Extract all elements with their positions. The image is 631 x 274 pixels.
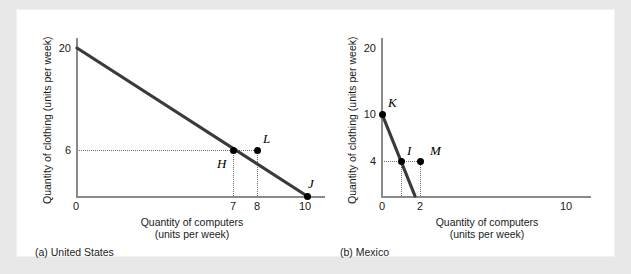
- panel-caption-mx: (b) Mexico: [340, 246, 389, 258]
- chart-panel-mexico: Quantity of clothing (units per week) 20…: [322, 10, 614, 256]
- x-axis-title-mx-line1: Quantity of computers: [392, 216, 582, 228]
- data-point-label-j: J: [308, 177, 314, 190]
- figure-frame: Quantity of clothing (units per week) 20…: [17, 10, 614, 256]
- data-point-label-l: L: [263, 132, 270, 145]
- data-point-l[interactable]: [254, 147, 261, 154]
- data-point-m[interactable]: [417, 158, 424, 165]
- data-point-k[interactable]: [379, 111, 386, 118]
- x-axis-title-mx-line2: (units per week): [392, 228, 582, 240]
- data-point-h[interactable]: [230, 147, 237, 154]
- data-point-label-i: I: [407, 144, 411, 157]
- panel-caption-us: (a) United States: [35, 246, 114, 258]
- chart-panel-united-states: Quantity of clothing (units per week) 20…: [17, 10, 327, 256]
- data-point-i[interactable]: [398, 158, 405, 165]
- data-point-label-m: M: [430, 144, 441, 157]
- data-point-label-h: H: [217, 157, 226, 170]
- x-axis-title-us-line2: (units per week): [97, 228, 287, 240]
- data-point-j[interactable]: [304, 193, 311, 200]
- x-axis-title-us-line1: Quantity of computers: [97, 216, 287, 228]
- data-point-label-k: K: [388, 96, 397, 109]
